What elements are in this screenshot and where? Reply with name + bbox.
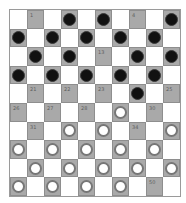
black-piece[interactable]	[63, 13, 76, 26]
board-square-9[interactable]	[112, 29, 129, 48]
black-piece[interactable]	[12, 69, 25, 82]
light-square	[61, 29, 78, 48]
board-square-47[interactable]	[44, 177, 61, 196]
board-square-14[interactable]	[129, 47, 146, 66]
board-square-45[interactable]	[163, 159, 180, 178]
black-piece[interactable]	[131, 87, 144, 100]
white-piece[interactable]	[63, 124, 76, 137]
board-square-12[interactable]	[61, 47, 78, 66]
board-square-44[interactable]	[129, 159, 146, 178]
black-piece[interactable]	[80, 69, 93, 82]
board-square-50[interactable]: 50	[146, 177, 163, 196]
square-number: 26	[13, 105, 19, 111]
black-piece[interactable]	[131, 50, 144, 63]
board-square-10[interactable]	[146, 29, 163, 48]
board-square-29[interactable]	[112, 103, 129, 122]
board-square-17[interactable]	[44, 66, 61, 85]
white-piece[interactable]	[80, 180, 93, 193]
white-piece[interactable]	[46, 180, 59, 193]
light-square	[129, 29, 146, 48]
board-square-49[interactable]	[112, 177, 129, 196]
board-square-13[interactable]: 13	[95, 47, 112, 66]
board-square-15[interactable]	[163, 47, 180, 66]
board-square-42[interactable]	[61, 159, 78, 178]
board-square-16[interactable]	[10, 66, 27, 85]
board-square-39[interactable]	[112, 140, 129, 159]
board-square-2[interactable]	[61, 10, 78, 29]
white-piece[interactable]	[131, 162, 144, 175]
light-square	[44, 84, 61, 103]
white-piece[interactable]	[114, 143, 127, 156]
board-square-21[interactable]: 21	[27, 84, 44, 103]
white-piece[interactable]	[29, 162, 42, 175]
white-piece[interactable]	[165, 124, 178, 137]
black-piece[interactable]	[114, 69, 127, 82]
white-piece[interactable]	[46, 143, 59, 156]
board-square-35[interactable]	[163, 122, 180, 141]
board-square-5[interactable]	[163, 10, 180, 29]
board-square-26[interactable]: 26	[10, 103, 27, 122]
white-piece[interactable]	[12, 180, 25, 193]
white-piece[interactable]	[97, 124, 110, 137]
black-piece[interactable]	[12, 31, 25, 44]
light-square	[10, 84, 27, 103]
black-piece[interactable]	[80, 31, 93, 44]
board-square-20[interactable]	[146, 66, 163, 85]
black-piece[interactable]	[165, 50, 178, 63]
white-piece[interactable]	[148, 143, 161, 156]
black-piece[interactable]	[29, 50, 42, 63]
board-square-22[interactable]: 22	[61, 84, 78, 103]
black-piece[interactable]	[46, 69, 59, 82]
light-square	[95, 177, 112, 196]
board-square-37[interactable]	[44, 140, 61, 159]
board-square-3[interactable]	[95, 10, 112, 29]
light-square	[61, 140, 78, 159]
board-square-19[interactable]	[112, 66, 129, 85]
board-square-1[interactable]: 1	[27, 10, 44, 29]
board-square-6[interactable]	[10, 29, 27, 48]
board-square-25[interactable]: 25	[163, 84, 180, 103]
board-square-38[interactable]	[78, 140, 95, 159]
board-square-34[interactable]: 34	[129, 122, 146, 141]
board-square-27[interactable]: 27	[44, 103, 61, 122]
board-square-36[interactable]	[10, 140, 27, 159]
board-square-4[interactable]: 4	[129, 10, 146, 29]
board-square-46[interactable]	[10, 177, 27, 196]
board-square-33[interactable]	[95, 122, 112, 141]
light-square	[44, 10, 61, 29]
black-piece[interactable]	[165, 13, 178, 26]
black-piece[interactable]	[63, 50, 76, 63]
black-piece[interactable]	[46, 31, 59, 44]
white-piece[interactable]	[114, 180, 127, 193]
white-piece[interactable]	[97, 162, 110, 175]
board-square-24[interactable]	[129, 84, 146, 103]
white-piece[interactable]	[63, 162, 76, 175]
light-square	[163, 140, 180, 159]
draughts-board: 14132122232526272830313450	[9, 9, 181, 197]
black-piece[interactable]	[148, 31, 161, 44]
board-square-40[interactable]	[146, 140, 163, 159]
black-piece[interactable]	[97, 13, 110, 26]
board-square-8[interactable]	[78, 29, 95, 48]
light-square	[10, 159, 27, 178]
board-square-11[interactable]	[27, 47, 44, 66]
board-square-48[interactable]	[78, 177, 95, 196]
white-piece[interactable]	[12, 143, 25, 156]
board-square-30[interactable]: 30	[146, 103, 163, 122]
square-number: 1	[30, 12, 33, 18]
black-piece[interactable]	[148, 69, 161, 82]
board-square-28[interactable]: 28	[78, 103, 95, 122]
board-square-23[interactable]: 23	[95, 84, 112, 103]
board-square-41[interactable]	[27, 159, 44, 178]
white-piece[interactable]	[114, 106, 127, 119]
board-square-31[interactable]: 31	[27, 122, 44, 141]
board-square-32[interactable]	[61, 122, 78, 141]
board-square-18[interactable]	[78, 66, 95, 85]
board-square-43[interactable]	[95, 159, 112, 178]
light-square	[146, 159, 163, 178]
white-piece[interactable]	[165, 162, 178, 175]
white-piece[interactable]	[80, 143, 93, 156]
black-piece[interactable]	[114, 31, 127, 44]
light-square	[44, 122, 61, 141]
board-square-7[interactable]	[44, 29, 61, 48]
